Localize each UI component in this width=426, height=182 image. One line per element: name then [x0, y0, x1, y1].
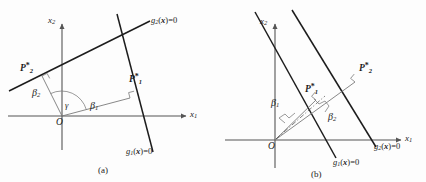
panel-b-x1-axis-label: x1	[405, 134, 412, 144]
panel-a: x1 x2 O γ P*1 P*2 β1 β2 g2(x)=0 g1(x)=0 …	[0, 0, 213, 182]
panel-b-caption: (b)	[311, 170, 322, 179]
panel-b-boundary-g1	[255, 12, 336, 158]
panel-b-x2-axis-label: x2	[260, 17, 267, 27]
panel-a-right-angle-p1	[129, 91, 135, 98]
panel-b-origin-label: O	[268, 142, 275, 152]
panel-a-x1-axis-label: x1	[190, 110, 197, 120]
panel-a-beta2-label: β2	[32, 88, 40, 99]
panel-b-drawing	[213, 0, 426, 182]
panel-b-constraint-g2-label: g2(x)=0	[374, 142, 400, 151]
panel-a-origin-label: O	[56, 118, 63, 128]
panel-b-point-p1-label: P*1	[305, 83, 318, 95]
panel-b: x1 x2 O P*1 P*2 β1 β2 g2(x)=0 g1(x)=0 (b…	[213, 0, 426, 182]
figure-root: x1 x2 O γ P*1 P*2 β1 β2 g2(x)=0 g1(x)=0 …	[0, 0, 426, 182]
panel-b-beta1-label: β1	[271, 98, 279, 109]
panel-a-constraint-g1-label: g1(x)=0	[126, 147, 152, 156]
panel-a-beta1-label: β1	[90, 101, 98, 112]
panel-a-constraint-g2-label: g2(x)=0	[151, 16, 177, 25]
panel-b-boundary-g2	[292, 10, 376, 147]
panel-b-right-angle-p2	[351, 74, 355, 82]
panel-b-beta1-leader	[279, 113, 295, 123]
panel-a-point-p1-label: P*1	[129, 73, 142, 85]
panel-b-constraint-g1-label: g1(x)=0	[333, 158, 359, 167]
panel-a-margin-beta2	[42, 76, 62, 116]
panel-a-x2-axis-label: x2	[48, 16, 55, 26]
panel-a-caption: (a)	[98, 166, 108, 175]
panel-a-angle-arc-gamma	[51, 91, 87, 110]
panel-a-point-p2-label: P*2	[20, 62, 33, 74]
panel-b-point-p2-label: P*2	[359, 62, 372, 74]
panel-a-gamma-label: γ	[65, 101, 68, 110]
panel-b-beta2-label: β2	[328, 112, 336, 123]
